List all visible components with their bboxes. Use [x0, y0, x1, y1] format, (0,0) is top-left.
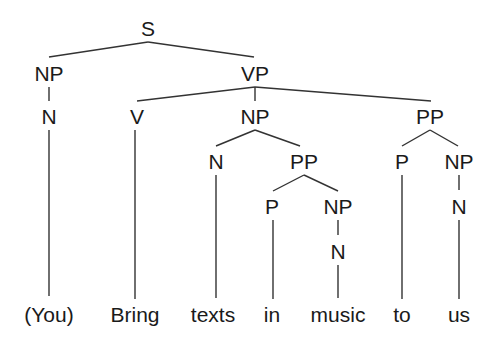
node-n-subject: N: [41, 105, 56, 128]
word-bring: Bring: [110, 303, 159, 326]
node-v: V: [130, 105, 144, 128]
word-us: us: [448, 303, 470, 326]
tree-nodes: S NP VP N V NP PP N PP P NP P NP N N: [34, 17, 473, 263]
node-np-object: NP: [240, 105, 269, 128]
node-vp: VP: [241, 62, 269, 85]
node-n-object: N: [208, 150, 223, 173]
syntax-tree: S NP VP N V NP PP N PP P NP P NP N N (Yo…: [0, 0, 499, 345]
tree-leaves: (You) Bring texts in music to us: [24, 303, 470, 326]
node-p-to: P: [395, 150, 409, 173]
tree-edge: [49, 42, 148, 57]
node-n-us: N: [451, 195, 466, 218]
word-to: to: [393, 303, 411, 326]
node-np-subject: NP: [34, 62, 63, 85]
tree-edge: [255, 130, 300, 146]
tree-edge: [304, 175, 338, 191]
node-pp-inner: PP: [290, 150, 318, 173]
node-pp-right: PP: [416, 105, 444, 128]
tree-edge: [148, 42, 254, 57]
node-p-in: P: [265, 195, 279, 218]
tree-edge: [430, 130, 458, 146]
tree-edge: [273, 175, 304, 191]
tree-edge: [216, 130, 255, 146]
tree-edge: [402, 130, 430, 146]
node-np-us: NP: [444, 150, 473, 173]
node-s: S: [141, 17, 155, 40]
word-texts: texts: [191, 303, 235, 326]
word-in: in: [264, 303, 280, 326]
word-music: music: [311, 303, 366, 326]
word-you: (You): [24, 303, 73, 326]
tree-edge: [255, 87, 431, 101]
tree-edge: [137, 87, 255, 101]
node-np-music: NP: [323, 195, 352, 218]
node-n-music: N: [330, 240, 345, 263]
